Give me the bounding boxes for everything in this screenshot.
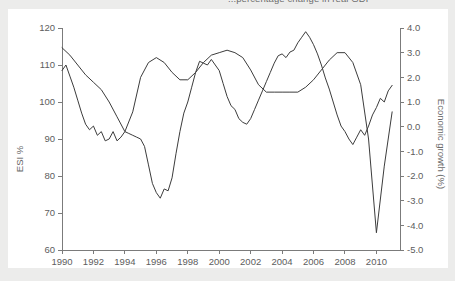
right-axis-tick-label: -2.0 [407,170,423,181]
right-axis-tick-label: -5.0 [407,244,423,255]
right-axis-tick-label: -3.0 [407,195,423,206]
series-line-economic-growth [62,48,392,233]
right-axis-tick-label: 3.0 [407,47,420,58]
right-axis-tick-label: 0.0 [407,121,420,132]
left-axis-title: ESI % [14,145,25,172]
left-axis-tick-label: 120 [39,22,55,33]
x-axis-tick-label: 2008 [334,256,355,267]
x-axis-tick-label: 2010 [366,256,387,267]
x-axis-tick-label: 2002 [240,256,261,267]
x-axis-tick-label: 1994 [114,256,135,267]
right-axis-title: Economic growth (%) [436,99,447,189]
line-chart-svg: 60708090100110120 -5.0-4.0-3.0-2.0-1.00.… [8,9,448,268]
left-axis-tick-label: 100 [39,96,55,107]
x-axis-tick-label: 1992 [83,256,104,267]
left-axis-tick-label: 110 [40,59,55,70]
chart-title: ...percentage change in real GDP [228,0,372,4]
series-line-esi [62,32,392,199]
right-axis: -5.0-4.0-3.0-2.0-1.00.01.02.03.04.0 [400,22,423,255]
x-axis-tick-label: 2004 [272,256,293,267]
x-axis-tick-label: 1998 [177,256,198,267]
left-axis: 60708090100110120 [39,22,62,255]
right-axis-tick-label: -1.0 [407,146,423,157]
x-axis-tick-label: 1990 [51,256,72,267]
figure-panel: 60708090100110120 -5.0-4.0-3.0-2.0-1.00.… [8,9,448,268]
x-axis-tick-label: 2000 [209,256,230,267]
chart-title-strip: ...percentage change in real GDP [0,0,455,9]
x-axis-tick-label: 1996 [146,256,167,267]
left-axis-tick-label: 90 [44,133,55,144]
x-axis-tick-label: 2006 [303,256,324,267]
left-axis-tick-label: 70 [44,207,55,218]
right-axis-tick-label: 2.0 [407,72,420,83]
left-axis-tick-label: 60 [44,244,55,255]
plot-area: 60708090100110120 -5.0-4.0-3.0-2.0-1.00.… [8,9,448,268]
right-axis-tick-label: -4.0 [407,220,423,231]
left-axis-tick-label: 80 [44,170,55,181]
chart-page: ...percentage change in real GDP 6070809… [0,0,455,281]
right-axis-tick-label: 1.0 [407,96,420,107]
data-series-group [62,32,392,233]
bottom-axis: 1990199219941996199820002002200420062008… [51,250,400,267]
right-axis-tick-label: 4.0 [407,22,420,33]
